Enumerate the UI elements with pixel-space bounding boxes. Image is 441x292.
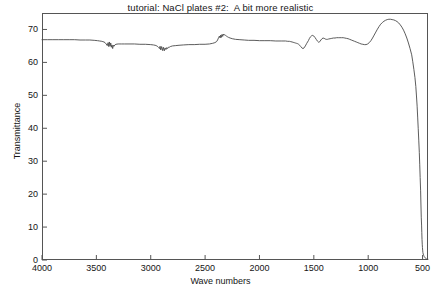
x-tick-label: 1000 — [358, 263, 378, 273]
spectrum-plot — [0, 0, 441, 292]
x-tick-label: 1500 — [304, 263, 324, 273]
x-tick-label: 3000 — [141, 263, 161, 273]
x-tick-label: 2500 — [195, 263, 215, 273]
x-tick-label: 500 — [415, 263, 430, 273]
x-axis-label: Wave numbers — [0, 276, 441, 286]
x-tick-label: 3500 — [86, 263, 106, 273]
x-tick-label: 2000 — [249, 263, 269, 273]
spectrum-line — [42, 19, 428, 259]
spectrum-figure: tutorial: NaCl plates #2: A bit more rea… — [0, 0, 441, 292]
x-tick-label: 4000 — [32, 263, 52, 273]
